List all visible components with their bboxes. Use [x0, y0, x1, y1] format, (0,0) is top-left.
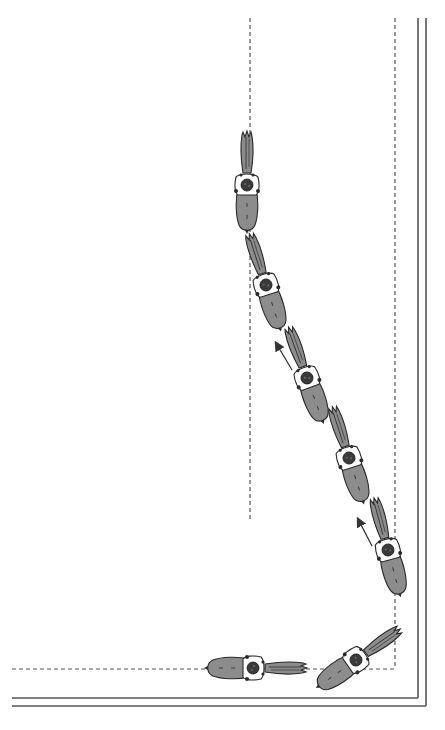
track-lines	[12, 18, 395, 669]
horse-rider-icon	[308, 618, 407, 698]
horse-rider-icon	[237, 230, 294, 336]
horse-rider-icon	[204, 655, 307, 681]
arena-diagram	[0, 0, 445, 730]
horse-rider-icon	[361, 494, 413, 600]
horse-rider-icon	[276, 323, 336, 429]
arrow-icon	[358, 519, 372, 546]
horse-rider-icon	[320, 403, 377, 509]
direction-arrows	[276, 343, 372, 546]
arena-wall	[12, 18, 426, 706]
horse-sequence	[204, 131, 413, 699]
horse-rider-icon	[234, 131, 260, 234]
